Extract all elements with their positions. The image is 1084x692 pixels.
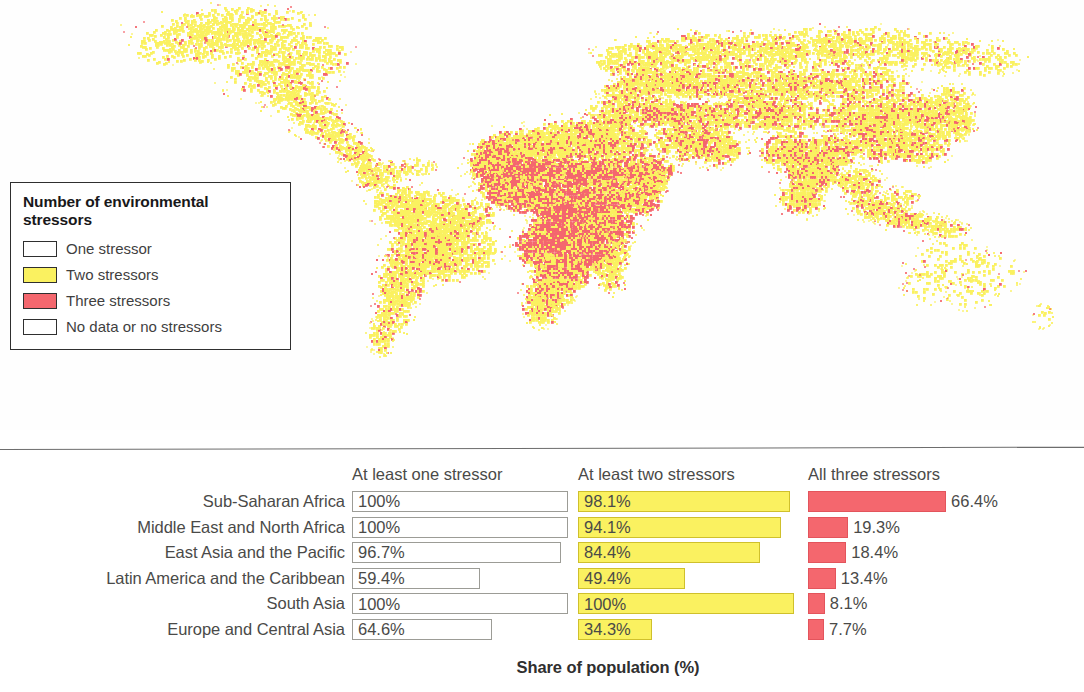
legend-label-two-stressors: Two stressors — [66, 267, 159, 282]
bar-two-stressors: 94.1% — [578, 517, 781, 538]
legend-label-one-stressor: One stressor — [66, 241, 152, 256]
section-divider — [0, 447, 1084, 450]
bar-three-stressors — [808, 542, 846, 563]
chart-row: Europe and Central Asia64.6%34.3%7.7% — [0, 619, 1084, 645]
bar-one-stressor: 64.6% — [352, 619, 492, 640]
row-label-latin-america-and-the-caribbean: Latin America and the Caribbean — [0, 568, 345, 589]
map-legend: Number of environmental stressors One st… — [10, 182, 291, 350]
bar-cell: 100% — [578, 593, 794, 614]
bar-cell: 100% — [352, 593, 568, 614]
bar-value-label: 7.7% — [824, 619, 867, 640]
bar-value-label: 100% — [353, 596, 400, 613]
chart-row: Middle East and North Africa100%94.1%19.… — [0, 517, 1084, 543]
bar-cell: 98.1% — [578, 491, 794, 512]
legend-swatch-one-stressor — [23, 241, 57, 257]
bar-value-label: 18.4% — [846, 542, 898, 563]
bar-value-label: 13.4% — [836, 568, 888, 589]
bar-value-label: 98.1% — [579, 493, 631, 510]
bar-one-stressor: 100% — [352, 491, 568, 512]
row-label-europe-and-central-asia: Europe and Central Asia — [0, 619, 345, 640]
bar-three-stressors — [808, 517, 848, 538]
chart-row: Latin America and the Caribbean59.4%49.4… — [0, 568, 1084, 594]
bar-value-label: 59.4% — [353, 570, 405, 587]
legend-item-one-stressor: One stressor — [23, 239, 278, 259]
chart-column-headers: At least one stressor At least two stres… — [0, 463, 1084, 485]
legend-swatch-three-stressors — [23, 293, 57, 309]
bar-two-stressors: 84.4% — [578, 542, 760, 563]
bar-value-label: 49.4% — [579, 570, 631, 587]
bar-cell: 100% — [352, 491, 568, 512]
bar-cell: 66.4% — [808, 491, 1016, 512]
bar-cell: 64.6% — [352, 619, 568, 640]
legend-label-three-stressors: Three stressors — [66, 293, 170, 308]
bar-cell: 34.3% — [578, 619, 794, 640]
chart-rows: Sub-Saharan Africa100%98.1%66.4%Middle E… — [0, 491, 1084, 645]
column-header-at-least-one-stressor: At least one stressor — [352, 463, 502, 485]
bar-cell: 59.4% — [352, 568, 568, 589]
bar-cell: 18.4% — [808, 542, 1016, 563]
row-label-south-asia: South Asia — [0, 593, 345, 614]
chart-row: East Asia and the Pacific96.7%84.4%18.4% — [0, 542, 1084, 568]
row-label-middle-east-and-north-africa: Middle East and North Africa — [0, 517, 345, 538]
bar-cell: 49.4% — [578, 568, 794, 589]
bar-value-label: 94.1% — [579, 519, 631, 536]
bar-value-label: 64.6% — [353, 621, 405, 638]
bar-cell: 94.1% — [578, 517, 794, 538]
row-label-sub-saharan-africa: Sub-Saharan Africa — [0, 491, 345, 512]
chart-row: Sub-Saharan Africa100%98.1%66.4% — [0, 491, 1084, 517]
bar-three-stressors — [808, 619, 824, 640]
bar-value-label: 19.3% — [848, 517, 900, 538]
bar-cell: 96.7% — [352, 542, 568, 563]
column-header-at-least-two-stressors: At least two stressors — [578, 463, 735, 485]
chart-row: South Asia100%100%8.1% — [0, 593, 1084, 619]
bar-one-stressor: 59.4% — [352, 568, 480, 589]
bar-three-stressors — [808, 491, 946, 512]
bar-three-stressors — [808, 568, 836, 589]
legend-swatch-no-data — [23, 319, 57, 335]
legend-item-no-data: No data or no stressors — [23, 317, 278, 337]
bar-one-stressor: 96.7% — [352, 542, 561, 563]
row-label-east-asia-and-the-pacific: East Asia and the Pacific — [0, 542, 345, 563]
bar-two-stressors: 98.1% — [578, 491, 790, 512]
world-map-panel: Number of environmental stressors One st… — [0, 0, 1084, 430]
x-axis-title: Share of population (%) — [0, 658, 1084, 677]
bar-cell: 8.1% — [808, 593, 1016, 614]
legend-item-three-stressors: Three stressors — [23, 291, 278, 311]
bar-value-label: 100% — [353, 519, 400, 536]
bar-two-stressors: 49.4% — [578, 568, 685, 589]
bar-value-label: 100% — [579, 596, 626, 613]
regional-share-bar-chart: At least one stressor At least two stres… — [0, 455, 1084, 692]
bar-cell: 7.7% — [808, 619, 1016, 640]
bar-two-stressors: 34.3% — [578, 619, 652, 640]
column-header-all-three-stressors: All three stressors — [808, 463, 940, 485]
bar-value-label: 84.4% — [579, 544, 631, 561]
legend-swatch-two-stressors — [23, 267, 57, 283]
legend-label-no-data: No data or no stressors — [66, 319, 222, 334]
figure-page: Number of environmental stressors One st… — [0, 0, 1084, 692]
bar-cell: 84.4% — [578, 542, 794, 563]
bar-three-stressors — [808, 593, 825, 614]
bar-value-label: 100% — [353, 493, 400, 510]
bar-value-label: 66.4% — [946, 491, 998, 512]
legend-item-two-stressors: Two stressors — [23, 265, 278, 285]
x-axis-title-text: Share of population (%) — [517, 658, 700, 676]
bar-cell: 19.3% — [808, 517, 1016, 538]
bar-value-label: 8.1% — [825, 593, 868, 614]
bar-two-stressors: 100% — [578, 593, 794, 614]
bar-cell: 13.4% — [808, 568, 1016, 589]
bar-one-stressor: 100% — [352, 517, 568, 538]
legend-title: Number of environmental stressors — [23, 193, 278, 230]
bar-cell: 100% — [352, 517, 568, 538]
bar-one-stressor: 100% — [352, 593, 568, 614]
bar-value-label: 34.3% — [579, 621, 631, 638]
bar-value-label: 96.7% — [353, 544, 405, 561]
